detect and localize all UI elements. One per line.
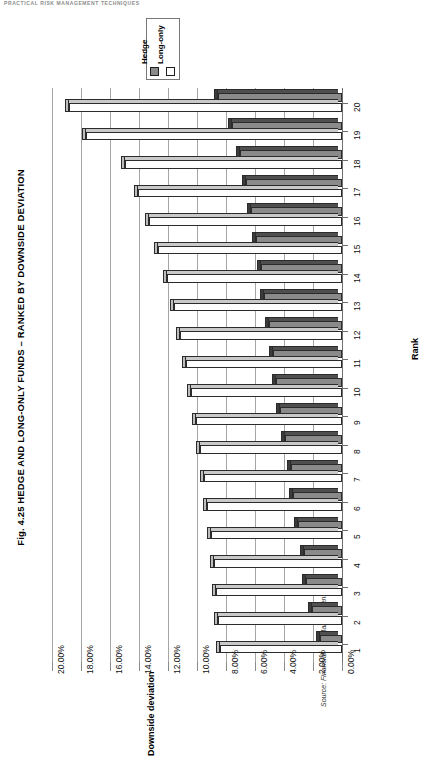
category-tick-label: 4	[352, 563, 362, 568]
legend-label-long-only: Long-only	[156, 25, 165, 64]
value-tick-label: 14.00%	[143, 645, 153, 674]
value-tick-mark	[255, 662, 256, 671]
bar-long-only-rank-13	[174, 303, 342, 312]
legend-label-hedge: Hedge	[140, 40, 149, 64]
value-tick-label: 8.00%	[230, 650, 240, 674]
bar-long-only-rank-7	[204, 474, 342, 483]
legend-entry-long-only: Long-only	[164, 23, 179, 77]
value-tick-mark	[168, 662, 169, 671]
category-tick-mark	[343, 302, 348, 303]
value-tick-label: 2.00%	[317, 650, 327, 674]
value-tick-label: 20.00%	[56, 645, 66, 674]
category-tick-label: 20	[352, 102, 362, 111]
category-tick-mark	[343, 274, 348, 275]
value-tick-mark	[139, 662, 140, 671]
value-tick-mark	[81, 662, 82, 671]
category-tick-mark	[343, 416, 348, 417]
category-tick-label: 7	[352, 477, 362, 482]
value-tick-label: 4.00%	[288, 650, 298, 674]
category-tick-label: 3	[352, 591, 362, 596]
value-gridline	[81, 88, 82, 662]
bar-long-only-rank-3	[216, 588, 342, 597]
category-tick-label: 12	[352, 330, 362, 339]
category-axis-line	[342, 88, 343, 662]
category-tick-label: 2	[352, 620, 362, 625]
category-tick-label: 13	[352, 302, 362, 311]
value-tick-mark	[197, 662, 198, 671]
bar-long-only-rank-14	[167, 274, 342, 283]
category-tick-mark	[343, 644, 348, 645]
value-gridline	[197, 88, 198, 662]
value-gridline	[52, 88, 53, 662]
category-tick-mark	[343, 131, 348, 132]
value-tick-label: 18.00%	[85, 645, 95, 674]
category-tick-label: 15	[352, 245, 362, 254]
value-gridline	[168, 88, 169, 662]
value-gridline	[226, 88, 227, 662]
category-tick-mark	[343, 217, 348, 218]
value-axis-title: Downside deviation	[146, 671, 156, 756]
value-tick-mark	[284, 662, 285, 671]
value-gridline	[110, 88, 111, 662]
value-tick-mark	[313, 662, 314, 671]
category-tick-label: 18	[352, 159, 362, 168]
value-tick-mark	[226, 662, 227, 671]
bar-long-only-rank-2	[218, 616, 342, 625]
category-tick-label: 6	[352, 506, 362, 511]
category-tick-mark	[343, 445, 348, 446]
value-gridline	[139, 88, 140, 662]
category-tick-label: 16	[352, 216, 362, 225]
category-tick-label: 14	[352, 273, 362, 282]
category-tick-mark	[343, 616, 348, 617]
category-tick-mark	[343, 103, 348, 104]
bar-long-only-rank-12	[180, 331, 342, 340]
category-tick-mark	[343, 559, 348, 560]
category-tick-label: 8	[352, 449, 362, 454]
category-tick-mark	[343, 331, 348, 332]
bar-long-only-rank-9	[196, 417, 342, 426]
value-tick-mark	[342, 662, 343, 671]
bar-long-only-rank-19	[86, 132, 342, 141]
category-tick-mark	[343, 502, 348, 503]
category-tick-mark	[343, 245, 348, 246]
bar-long-only-rank-18	[125, 160, 343, 169]
category-tick-mark	[343, 388, 348, 389]
category-tick-mark	[343, 587, 348, 588]
bar-long-only-rank-20	[69, 103, 342, 112]
bar-long-only-rank-6	[207, 502, 342, 511]
category-tick-mark	[343, 530, 348, 531]
category-tick-label: 11	[352, 359, 362, 368]
page-title: Fig. 4.25 HEDGE AND LONG-ONLY FUNDS – RA…	[15, 0, 26, 718]
category-axis-title: Rank	[410, 338, 420, 360]
bar-long-only-rank-16	[149, 217, 342, 226]
category-tick-label: 19	[352, 131, 362, 140]
category-tick-label: 9	[352, 420, 362, 425]
bar-long-only-rank-17	[138, 189, 342, 198]
running-head: PRACTICAL RISK MANAGEMENT TECHNIQUES	[4, 0, 234, 7]
category-tick-mark	[343, 160, 348, 161]
value-tick-label: 10.00%	[201, 645, 211, 674]
value-tick-label: 6.00%	[259, 650, 269, 674]
category-tick-label: 17	[352, 188, 362, 197]
value-tick-label: 12.00%	[172, 645, 182, 674]
legend-swatch-long-only	[166, 67, 175, 76]
bar-long-only-rank-4	[214, 559, 342, 568]
category-tick-label: 10	[352, 387, 362, 396]
category-tick-mark	[343, 473, 348, 474]
chart-legend: Hedge Long-only	[146, 18, 180, 80]
bar-long-only-rank-5	[211, 531, 342, 540]
value-tick-mark	[110, 662, 111, 671]
bar-long-only-rank-8	[200, 445, 342, 454]
category-tick-mark	[343, 359, 348, 360]
value-tick-label: 16.00%	[114, 645, 124, 674]
value-tick-mark	[52, 662, 53, 671]
value-tick-label: 0.00%	[346, 650, 356, 674]
category-tick-mark	[343, 188, 348, 189]
bar-long-only-rank-11	[186, 360, 342, 369]
bar-long-only-rank-10	[191, 388, 342, 397]
legend-swatch-hedge	[150, 67, 159, 76]
category-tick-label: 5	[352, 534, 362, 539]
chart-plot-area: 20191817161514131211109876543210.00%2.00…	[30, 60, 370, 680]
bar-long-only-rank-15	[158, 246, 342, 255]
